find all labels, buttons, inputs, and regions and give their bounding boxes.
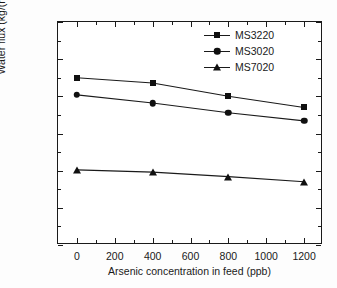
data-point-MS3020-800 [225,109,232,116]
y-tick-right-20 [316,134,321,135]
data-point-MS3220-400 [150,80,156,86]
y-tick-10 [58,208,63,209]
data-point-MS3020-1200 [301,118,308,125]
series-line-MS3220 [77,78,304,108]
x-minor-tick-top [209,22,210,25]
x-tick-800 [228,238,229,243]
chart-legend: MS3220MS3020MS7020 [204,27,274,75]
data-point-MS7020-400 [149,169,157,176]
data-point-MS7020-1200 [300,178,308,185]
y-minor-tick [58,152,61,153]
y-tick-right-25 [316,96,321,97]
data-point-MS3220-1200 [301,104,307,110]
x-minor-tick-top [285,22,286,25]
y-minor-tick [58,78,61,79]
x-minor-tick [134,240,135,243]
legend-item-MS7020[interactable]: MS7020 [204,59,274,75]
x-minor-tick-top [172,22,173,25]
x-tick-top-200 [115,22,116,27]
legend-marker-square-icon [204,29,230,41]
x-minor-tick [172,240,173,243]
legend-label: MS7020 [235,61,274,73]
x-tick-1000 [266,238,267,243]
data-point-MS3020-0 [74,92,81,99]
x-tick-top-400 [153,22,154,27]
y-axis-title-prefix: Water flux (kg/(m [0,0,7,74]
data-point-MS3020-400 [149,100,156,107]
x-tick-top-0 [77,22,78,27]
x-minor-tick [209,240,210,243]
x-minor-tick-top [134,22,135,25]
y-minor-tick [58,41,61,42]
y-tick-right-35 [316,22,321,23]
legend-item-MS3020[interactable]: MS3020 [204,43,274,59]
legend-marker-circle-icon [204,45,230,57]
x-minor-tick-top [96,22,97,25]
y-minor-tick [58,115,61,116]
legend-label: MS3220 [235,29,274,41]
y-tick-20 [58,134,63,135]
y-tick-25 [58,96,63,97]
y-tick-right-30 [316,59,321,60]
y-tick-right-10 [316,208,321,209]
x-minor-tick [96,240,97,243]
x-tick-top-600 [191,22,192,27]
y-minor-tick [318,226,321,227]
x-minor-tick [247,240,248,243]
y-tick-35 [58,22,63,23]
y-minor-tick [318,115,321,116]
x-axis-title: Arsenic concentration in feed (ppb) [57,265,322,277]
plot-area: 5101520253035020040060080010001200 [57,21,322,244]
x-tick-label-1200: 1200 [281,250,327,262]
series-lines [58,22,323,245]
legend-symbol [213,64,221,71]
x-tick-400 [153,238,154,243]
x-tick-200 [115,238,116,243]
x-tick-1200 [304,238,305,243]
legend-symbol [214,48,221,55]
x-minor-tick [285,240,286,243]
data-point-MS7020-800 [224,173,232,180]
y-tick-right-15 [316,171,321,172]
y-minor-tick [318,189,321,190]
y-minor-tick [318,78,321,79]
y-minor-tick [318,152,321,153]
x-tick-600 [191,238,192,243]
data-point-MS7020-0 [73,166,81,173]
legend-label: MS3020 [235,45,274,57]
legend-symbol [214,32,220,38]
series-line-MS3020 [77,95,304,121]
y-tick-30 [58,59,63,60]
data-point-MS3220-0 [74,75,80,81]
y-tick-right-5 [316,245,321,246]
x-minor-tick-top [247,22,248,25]
x-tick-top-1200 [304,22,305,27]
y-minor-tick [58,226,61,227]
y-tick-15 [58,171,63,172]
data-point-MS3220-800 [225,93,231,99]
x-tick-0 [77,238,78,243]
y-minor-tick [58,189,61,190]
legend-item-MS3220[interactable]: MS3220 [204,27,274,43]
y-axis-title: Water flux (kg/(m2 hr)) [0,0,7,133]
chart-figure: 5101520253035020040060080010001200 Water… [0,0,337,288]
legend-marker-triangle-icon [204,61,230,73]
y-tick-5 [58,245,63,246]
series-line-MS7020 [77,170,304,182]
y-minor-tick [318,41,321,42]
